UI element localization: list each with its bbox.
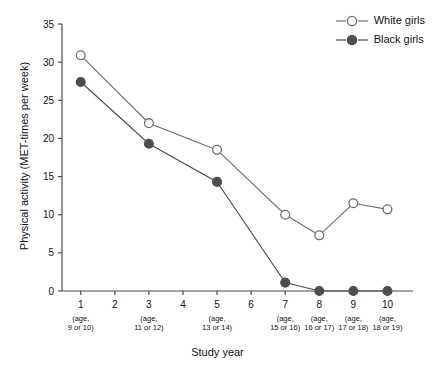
data-point-marker: [281, 210, 290, 219]
y-axis-tick-label: 20: [43, 133, 55, 144]
legend-item-white-girls: White girls: [335, 14, 425, 27]
data-point-marker: [315, 231, 324, 240]
data-point-marker: [145, 119, 154, 128]
x-axis-tick-label: 8: [317, 299, 323, 310]
x-axis-sub-label: 9 or 10): [68, 323, 94, 332]
data-point-marker: [145, 139, 154, 148]
data-point-marker: [349, 199, 358, 208]
x-axis-sub-label: (age,: [277, 314, 294, 323]
series-white-girls: [76, 51, 392, 240]
x-axis-sub-label: 16 or 17): [304, 323, 335, 332]
x-axis-sub-label: 11 or 12): [134, 323, 164, 332]
data-point-marker: [383, 205, 392, 214]
line-chart-plot: 0510152025303512345678910(age,9 or 10)(a…: [0, 0, 435, 366]
y-axis-tick-label: 15: [43, 171, 55, 182]
x-axis-sub-label: (age,: [72, 314, 89, 323]
chart-figure: 0510152025303512345678910(age,9 or 10)(a…: [0, 0, 435, 366]
x-axis-sub-label: 15 or 16): [270, 323, 301, 332]
data-point-marker: [383, 287, 392, 296]
x-axis-tick-label: 10: [382, 299, 394, 310]
y-axis-tick-label: 10: [43, 209, 55, 220]
data-point-marker: [213, 145, 222, 154]
x-axis-sub-label: (age,: [345, 314, 362, 323]
y-axis-title: Physical activity (MET-times per week): [18, 46, 30, 266]
legend-label-white-girls: White girls: [374, 15, 425, 26]
x-axis-tick-label: 4: [180, 299, 186, 310]
x-axis-tick-label: 5: [214, 299, 220, 310]
y-axis-tick-label: 5: [48, 247, 54, 258]
x-axis-sub-label: 18 or 19): [372, 323, 403, 332]
series-line: [81, 82, 388, 291]
series-layer: [76, 51, 392, 296]
legend-item-black-girls: Black girls: [335, 33, 425, 46]
x-axis-tick-label: 7: [282, 299, 288, 310]
y-axis-tick-label: 25: [43, 95, 55, 106]
data-point-marker: [315, 287, 324, 296]
x-axis-sub-label: (age,: [140, 314, 157, 323]
legend-key-open-circle: [335, 15, 369, 27]
y-axis-tick-label: 35: [43, 19, 55, 30]
x-axis-tick-label: 1: [78, 299, 84, 310]
x-axis-tick-label: 6: [248, 299, 254, 310]
data-point-marker: [281, 278, 290, 287]
x-axis-sub-label: (age,: [311, 314, 328, 323]
data-point-marker: [213, 178, 222, 187]
x-axis-sub-label: (age,: [379, 314, 396, 323]
x-axis-sub-label: 13 or 14): [202, 323, 233, 332]
legend-key-filled-circle: [335, 34, 369, 46]
data-point-marker: [76, 51, 85, 60]
y-axis-tick-label: 30: [43, 57, 55, 68]
x-axis-sub-label: 17 or 18): [338, 323, 369, 332]
series-black-girls: [76, 78, 392, 296]
legend-label-black-girls: Black girls: [374, 34, 424, 45]
axis-layer: 0510152025303512345678910(age,9 or 10)(a…: [43, 19, 413, 332]
chart-legend: White girls Black girls: [335, 14, 425, 46]
x-axis-title: Study year: [0, 346, 435, 358]
series-line: [81, 55, 388, 235]
data-point-marker: [76, 78, 85, 87]
x-axis-tick-label: 3: [146, 299, 152, 310]
y-axis-tick-label: 0: [48, 286, 54, 297]
x-axis-tick-label: 9: [351, 299, 357, 310]
x-axis-tick-label: 2: [112, 299, 118, 310]
x-axis-sub-label: (age,: [208, 314, 225, 323]
data-point-marker: [349, 287, 358, 296]
